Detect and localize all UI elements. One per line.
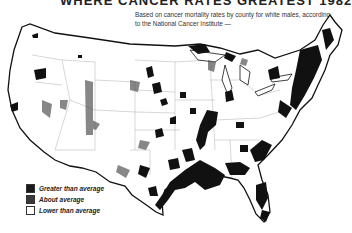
- swatch-lower-than-average: [26, 206, 35, 215]
- legend-item-lower: Lower than average: [26, 205, 104, 215]
- swatch-about-average: [26, 195, 35, 204]
- legend-item-about: About average: [26, 194, 104, 204]
- map-legend: Greater than average About average Lower…: [26, 183, 104, 216]
- legend-label: Greater than average: [39, 185, 104, 192]
- legend-label: About average: [39, 196, 84, 203]
- legend-item-greater: Greater than average: [26, 183, 104, 193]
- legend-label: Lower than average: [39, 207, 100, 214]
- swatch-greater-than-average: [26, 184, 35, 193]
